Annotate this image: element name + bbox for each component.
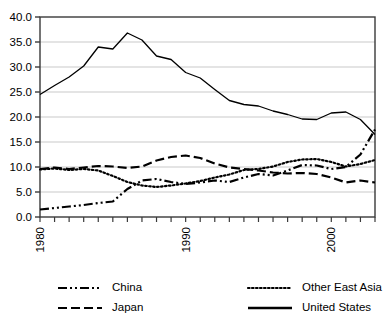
y-axis-tick-label: 35.0 (10, 36, 32, 48)
series-line (40, 159, 375, 187)
legend-label: Other East Asia (302, 281, 383, 293)
data-series-group (40, 33, 375, 210)
y-axis-tick-label: 5.0 (16, 186, 32, 198)
y-axis-tick-label: 20.0 (10, 111, 32, 123)
y-axis-tick-label: 0.0 (16, 211, 32, 223)
line-chart: 0.05.010.015.020.025.030.035.040.0198019… (0, 0, 388, 319)
x-axis-tick-label: 2000 (325, 227, 337, 253)
x-axis: 198019902000 (34, 217, 375, 253)
x-axis-tick-label: 1990 (180, 227, 192, 253)
legend-item[interactable]: United States (248, 301, 371, 313)
y-axis-tick-label: 15.0 (10, 136, 32, 148)
legend-item[interactable]: Other East Asia (248, 281, 383, 293)
y-axis-tick-label: 10.0 (10, 161, 32, 173)
legend-label: Japan (112, 301, 143, 313)
legend-label: United States (302, 301, 371, 313)
y-axis-tick-label: 40.0 (10, 11, 32, 23)
y-axis-tick-label: 30.0 (10, 61, 32, 73)
y-axis-tick-label: 25.0 (10, 86, 32, 98)
chart-container: 0.05.010.015.020.025.030.035.040.0198019… (0, 0, 388, 319)
y-axis: 0.05.010.015.020.025.030.035.040.0 (10, 11, 40, 223)
legend-label: China (112, 281, 143, 293)
series-line (40, 33, 375, 135)
x-axis-tick-label: 1980 (34, 227, 46, 253)
legend-item[interactable]: China (58, 281, 143, 293)
legend-item[interactable]: Japan (58, 301, 143, 313)
legend: ChinaOther East AsiaJapanUnited States (58, 281, 383, 313)
